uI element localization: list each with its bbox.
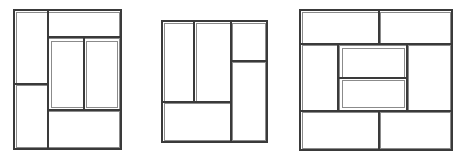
figure-3-inner-upper-cell: [342, 48, 404, 77]
figure-2-right-lower-cell: [232, 62, 265, 140]
figure-3-inner-lower-cell: [342, 80, 404, 107]
diagram-canvas: [0, 0, 463, 161]
figure-2-right-upper-cell: [232, 23, 265, 60]
figure-3-bottom-left-band: [302, 112, 378, 148]
partition-diagrams-svg: [0, 0, 463, 161]
figure-1-right-upper-band: [48, 12, 119, 37]
figure-1-left-upper-cell: [16, 12, 47, 84]
figure-3-middle-left-cell: [302, 45, 337, 110]
figure-3-middle-right-cell: [408, 45, 450, 110]
figure-1-right-lower-band: [48, 111, 119, 147]
figure-3-bottom-right-band: [380, 112, 450, 148]
figure-3-top-right-band: [380, 12, 450, 43]
figure-2-bottom-left-band: [164, 103, 230, 140]
figure-3-group: [300, 10, 452, 150]
figure-2-left-tall-cell: [164, 23, 193, 101]
figure-1-left-lower-cell: [16, 85, 47, 147]
figure-3-top-left-band: [302, 12, 378, 43]
figure-1-group: [14, 10, 121, 149]
figure-1-inner-right-cell: [86, 41, 117, 107]
figure-1-inner-left-cell: [51, 41, 83, 107]
figure-2-group: [162, 21, 267, 142]
figure-2-middle-tall-cell: [196, 23, 230, 101]
